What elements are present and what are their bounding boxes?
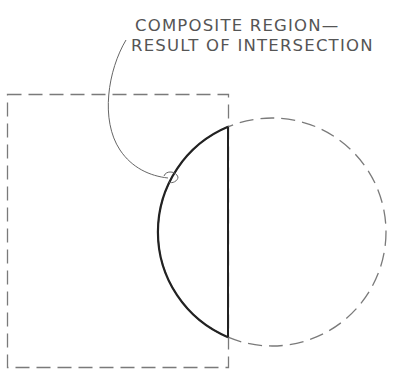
intersection-diagram: COMPOSITE REGION— RESULT OF INTERSECTION xyxy=(0,0,409,370)
dashed-circle xyxy=(158,118,386,346)
composite-region-arc xyxy=(158,127,228,337)
dashed-rectangle xyxy=(8,95,229,368)
composite-region xyxy=(158,127,228,337)
annotation-line-1: COMPOSITE REGION— xyxy=(135,16,340,35)
annotation-line-2: RESULT OF INTERSECTION xyxy=(131,36,374,55)
leader-line xyxy=(108,40,168,178)
